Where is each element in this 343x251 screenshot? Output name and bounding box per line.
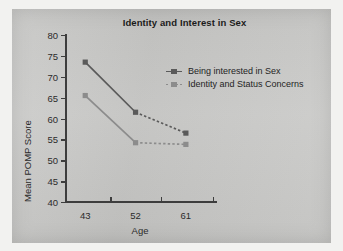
data-point-marker <box>183 131 188 136</box>
y-axis-tick <box>61 202 66 203</box>
x-axis-tick-label: 52 <box>130 210 141 221</box>
y-axis-tick-label: 55 <box>47 134 58 145</box>
y-axis-tick-label: 70 <box>47 71 58 82</box>
y-axis-tick-label: 45 <box>47 176 58 187</box>
figure-page: Identity and Interest in Sex Mean POMP S… <box>0 0 343 251</box>
series-segment <box>85 96 135 143</box>
x-axis-tick-label: 43 <box>80 210 91 221</box>
legend-swatch-icon <box>166 68 182 75</box>
chart-legend: Being interested in SexIdentity and Stat… <box>166 66 304 89</box>
legend-item: Being interested in Sex <box>166 66 304 76</box>
y-axis-tick-label: 75 <box>47 50 58 61</box>
plot-area: 807570656055504540 435261 <box>66 35 214 202</box>
legend-item-label: Being interested in Sex <box>188 66 281 76</box>
data-point-marker <box>133 110 138 115</box>
y-axis-title: Mean POMP Score <box>22 35 33 202</box>
legend-swatch-icon <box>166 81 182 88</box>
series-plot <box>66 35 214 202</box>
series-segment <box>85 62 135 112</box>
legend-item-label: Identity and Status Concerns <box>188 79 304 89</box>
x-axis-tick-label: 61 <box>181 210 192 221</box>
y-axis-tick-label: 50 <box>47 155 58 166</box>
y-axis-tick-label: 80 <box>47 30 58 41</box>
series-segment <box>136 112 186 133</box>
data-point-marker <box>83 60 88 65</box>
y-axis-tick-label: 60 <box>47 113 58 124</box>
data-point-marker <box>133 140 138 145</box>
x-axis-title: Age <box>66 225 214 236</box>
data-point-marker <box>183 142 188 147</box>
y-axis-tick-label: 65 <box>47 92 58 103</box>
chart-title: Identity and Interest in Sex <box>0 17 343 28</box>
series-segment <box>136 143 186 145</box>
data-point-marker <box>83 93 88 98</box>
y-axis-tick-label: 40 <box>47 197 58 208</box>
legend-item: Identity and Status Concerns <box>166 79 304 89</box>
